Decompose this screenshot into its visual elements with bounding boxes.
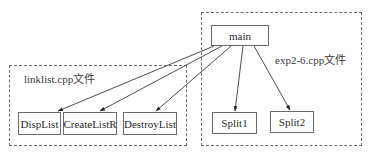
node-destroylist: DestroyList xyxy=(123,112,177,135)
group-label-exp2-6-cpp: exp2-6.cpp文件 xyxy=(275,51,346,67)
node-split1: Split1 xyxy=(212,112,257,134)
node-displist: DispList xyxy=(18,112,61,135)
call-graph-diagram: linklist.cpp文件 exp2-6.cpp文件 main DispLis… xyxy=(0,0,372,156)
group-label-linklist-cpp: linklist.cpp文件 xyxy=(24,70,95,86)
node-createlistr: CreateListR xyxy=(63,112,117,135)
node-split2: Split2 xyxy=(270,111,314,133)
node-main: main xyxy=(211,25,269,46)
